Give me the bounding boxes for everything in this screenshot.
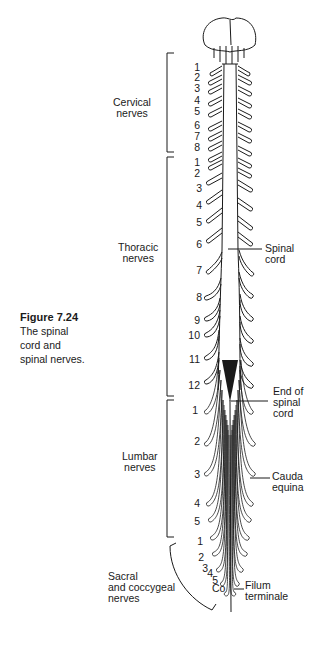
label-line: nerves xyxy=(122,462,158,473)
callout-line: terminale xyxy=(245,591,288,602)
nerve-number: 2 xyxy=(190,552,204,562)
nerve-number: 6 xyxy=(186,120,200,130)
end-of-spinal-cord-callout: End of spinal cord xyxy=(273,386,303,419)
nerve-number: 3 xyxy=(186,469,200,479)
nerve-number: 2 xyxy=(186,168,200,178)
nerve-number: 6 xyxy=(188,239,202,249)
cervical-roots xyxy=(208,66,251,156)
nerve-number: 9 xyxy=(186,315,200,325)
figure-caption: Figure 7.24 The spinal cord and spinal n… xyxy=(20,310,85,366)
nerve-number: 7 xyxy=(186,131,200,141)
nerve-number: 12 xyxy=(186,380,200,390)
thoracic-bracket xyxy=(167,157,174,396)
brain-icon xyxy=(203,18,256,52)
callout-line: cord xyxy=(265,254,294,265)
label-line: nerves xyxy=(108,593,175,604)
nerve-number: 5 xyxy=(186,106,200,116)
sacral-coccygeal-nerves-label: Sacral and coccygeal nerves xyxy=(108,571,175,604)
nerve-number: 1 xyxy=(184,405,198,415)
nerve-number: 5 xyxy=(188,217,202,227)
filum-terminale-callout: Filum terminale xyxy=(245,580,288,602)
nerve-number: 1 xyxy=(186,157,200,167)
lumbar-nerves-label: Lumbar nerves xyxy=(122,451,158,473)
label-line: nerves xyxy=(118,253,158,264)
caption-line: cord and xyxy=(20,338,85,352)
nerve-number: 3 xyxy=(188,183,202,193)
nerve-number: Co xyxy=(212,583,226,593)
nerve-number: 8 xyxy=(188,292,202,302)
lumbar-bracket xyxy=(167,400,174,537)
thoracic-nerves-label: Thoracic nerves xyxy=(118,242,158,264)
nerve-number: 11 xyxy=(186,354,200,364)
nerve-number: 7 xyxy=(188,265,202,275)
cervical-nerves-label: Cervical nerves xyxy=(113,97,151,119)
nerve-number: 5 xyxy=(186,516,200,526)
caption-line: The spinal xyxy=(20,324,85,338)
figure-number: Figure 7.24 xyxy=(20,310,85,324)
thoracic-roots xyxy=(204,152,253,388)
nerve-number: 1 xyxy=(189,536,203,546)
caption-line: spinal nerves. xyxy=(20,352,85,366)
cervical-bracket xyxy=(167,53,174,152)
callout-line: equina xyxy=(272,482,304,493)
nerve-number: 8 xyxy=(186,142,200,152)
nerve-number: 4 xyxy=(188,200,202,210)
cauda-equina-callout: Cauda equina xyxy=(272,471,304,493)
nerve-number: 2 xyxy=(186,436,200,446)
nerve-number: 3 xyxy=(186,83,200,93)
callout-line: cord xyxy=(273,408,303,419)
nerve-number: 4 xyxy=(186,95,200,105)
spinal-cord-callout: Spinal cord xyxy=(265,243,294,265)
nerve-number: 2 xyxy=(186,72,200,82)
nerve-number: 10 xyxy=(186,330,200,340)
nerve-number: 4 xyxy=(186,498,200,508)
label-line: nerves xyxy=(113,108,151,119)
